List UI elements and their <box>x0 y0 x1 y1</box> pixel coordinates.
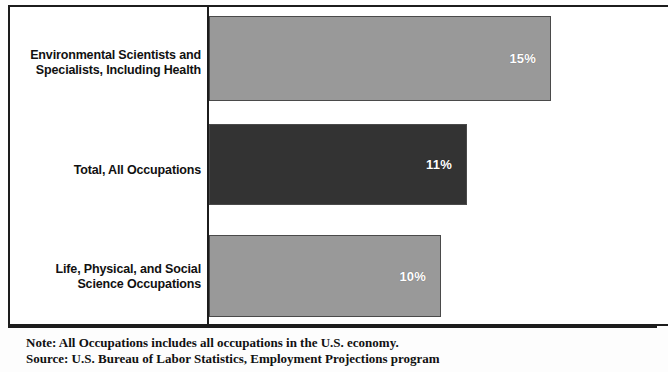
note-text: Note: All Occupations includes all occup… <box>26 335 646 351</box>
bar-value-label: 11% <box>426 157 452 172</box>
category-label-total-all-occupations: Total, All Occupations <box>11 163 201 178</box>
category-label-line1: Environmental Scientists and <box>30 48 201 62</box>
bar-value-label: 15% <box>509 51 536 66</box>
bar-value-label: 10% <box>399 269 426 284</box>
category-label-column: Environmental Scientists and Specialists… <box>10 7 205 325</box>
category-label-line2: Science Occupations <box>77 277 201 291</box>
source-text: Source: U.S. Bureau of Labor Statistics,… <box>26 351 646 367</box>
category-label-line1: Life, Physical, and Social <box>56 262 201 276</box>
footer-notes: Note: All Occupations includes all occup… <box>26 335 646 367</box>
category-label-environmental-scientists: Environmental Scientists and Specialists… <box>11 48 201 78</box>
footer-divider <box>8 326 657 328</box>
category-label-line1: Total, All Occupations <box>74 163 201 177</box>
plot-area: 15% 11% 10% <box>209 5 657 326</box>
category-label-life-physical-social-science: Life, Physical, and Social Science Occup… <box>11 262 201 292</box>
bar-environmental-scientists: 15% <box>209 16 551 101</box>
bar-life-physical-social-science: 10% <box>209 235 441 317</box>
category-label-line2: Specialists, Including Health <box>36 63 201 77</box>
bar-total-all-occupations: 11% <box>209 124 467 205</box>
